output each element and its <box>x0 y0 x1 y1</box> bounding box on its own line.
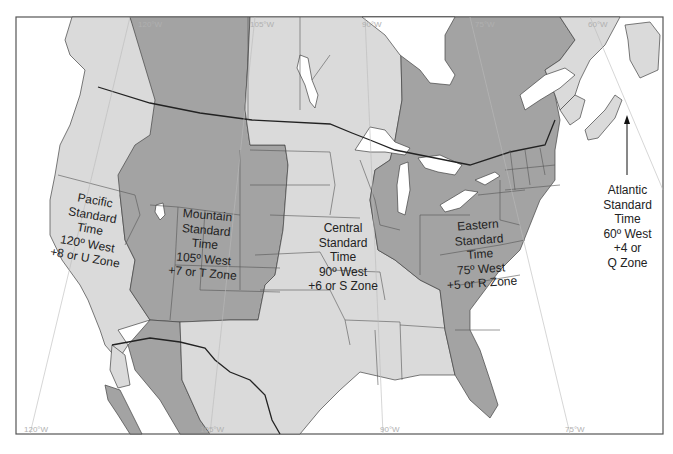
meridian-label-top-105: 105°W <box>250 20 274 29</box>
mountain-zone-label: Mountain Standard Time 105º West +7 or T… <box>157 204 253 284</box>
meridian-label-bottom-75: 75°W <box>565 425 585 434</box>
meridian-label-bottom-90: 90°W <box>380 425 400 434</box>
eastern-zone-label: Eastern Standard Time 75º West +5 or R Z… <box>438 215 523 293</box>
meridian-label-bottom-120: 120°W <box>24 425 48 434</box>
meridian-label-top-75: 75°W <box>475 20 495 29</box>
meridian-label-top-90: 90°W <box>362 20 382 29</box>
meridian-label-bottom-105: 105°W <box>200 425 224 434</box>
pacific-zone-label: Pacific Standard Time 120º West +8 or U … <box>39 186 140 273</box>
meridian-label-top-120: 120°W <box>138 20 162 29</box>
meridian-label-top-60: 60°W <box>588 20 608 29</box>
atlantic-zone-label: Atlantic Standard Time 60º West +4 or Q … <box>590 183 665 270</box>
central-zone-label: Central Standard Time 90º West +6 or S Z… <box>303 221 383 294</box>
